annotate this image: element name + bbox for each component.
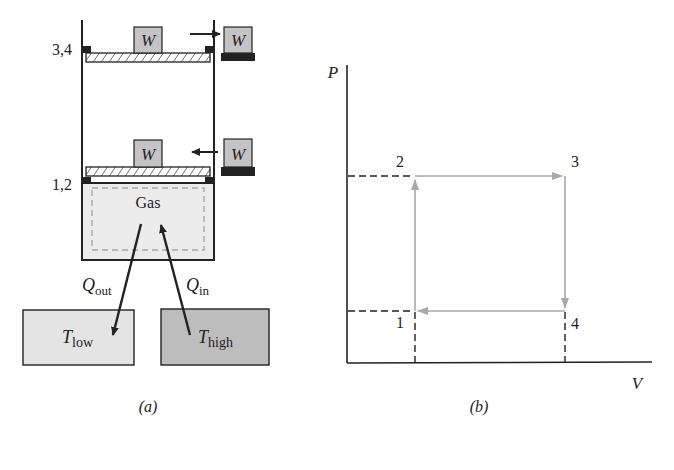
weight-label: W xyxy=(141,145,157,164)
external-shelf-lower xyxy=(221,167,255,176)
external-shelf-upper xyxy=(221,53,255,61)
v-axis xyxy=(347,362,652,363)
state-label-1: 1 xyxy=(396,314,404,331)
panel-a-caption: (a) xyxy=(139,398,158,416)
state-label-4: 4 xyxy=(571,315,579,332)
gas-label: Gas xyxy=(136,194,161,211)
v-axis-label: V xyxy=(632,374,645,393)
panel-b-pv-diagram: P V 1 2 3 4 (b) xyxy=(327,63,652,416)
weight-label: W xyxy=(141,31,157,50)
weight-label: W xyxy=(231,145,247,164)
stop-upper-left xyxy=(83,46,91,53)
figure-canvas: Gas W W W W 3,4 1,2 Tlow Thigh xyxy=(0,0,674,470)
state-label-3: 3 xyxy=(571,153,579,170)
heat-in-label: Qin xyxy=(186,275,210,298)
heat-out-label: Qout xyxy=(82,275,112,298)
piston-lower xyxy=(86,167,210,176)
stop-upper-right xyxy=(205,46,213,53)
panel-b-caption: (b) xyxy=(470,398,489,416)
position-label-bottom: 1,2 xyxy=(52,176,72,193)
position-label-top: 3,4 xyxy=(52,41,72,58)
weight-label: W xyxy=(231,31,247,50)
p-axis-label: P xyxy=(327,63,338,82)
stop-lower-left xyxy=(83,177,91,184)
stop-lower-right xyxy=(205,177,213,184)
state-label-2: 2 xyxy=(396,153,404,170)
panel-a-engine-diagram: Gas W W W W 3,4 1,2 Tlow Thigh xyxy=(23,20,269,416)
piston-upper xyxy=(86,53,210,62)
